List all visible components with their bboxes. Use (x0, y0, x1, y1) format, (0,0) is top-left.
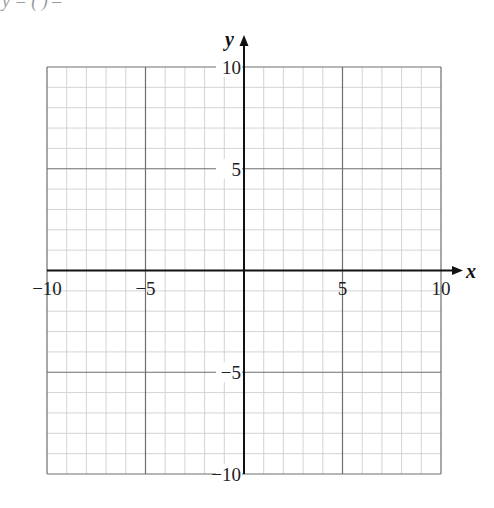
y-tick-label: −5 (221, 362, 241, 383)
x-tick-label: 5 (338, 278, 348, 299)
coordinate-grid: −10−5510105−5−10 y x (0, 0, 494, 508)
axes (47, 35, 463, 474)
y-tick-label: 5 (232, 159, 242, 180)
y-tick-label: −10 (211, 464, 241, 485)
y-axis-label: y (223, 28, 234, 51)
y-axis-arrow-icon (240, 35, 249, 46)
y-tick-label: 10 (222, 57, 241, 78)
x-tick-label: −10 (32, 278, 62, 299)
x-tick-label: 10 (432, 278, 451, 299)
x-tick-label: −5 (135, 278, 155, 299)
x-axis-arrow-icon (452, 266, 463, 275)
x-axis-label: x (465, 260, 476, 282)
